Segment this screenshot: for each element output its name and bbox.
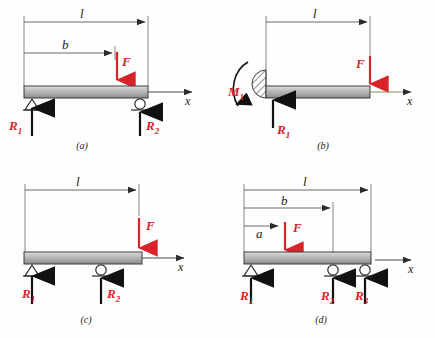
axis-label-x: x <box>407 94 412 109</box>
axis-label-x: x <box>185 94 190 109</box>
panel-caption-b: (b) <box>303 140 343 151</box>
reaction-label-R3: R3 <box>355 288 368 306</box>
axis-label-x: x <box>178 260 183 275</box>
beam-body <box>266 86 370 98</box>
panel-caption-a: (a) <box>62 140 102 151</box>
panel-caption-d: (d) <box>301 314 341 325</box>
reaction-label-R1: R1 <box>277 122 290 140</box>
support-roller-3 <box>360 265 370 275</box>
support-fixed-wall <box>252 70 266 98</box>
dimension-label-b: b <box>62 37 69 53</box>
force-label-F: F <box>146 218 155 234</box>
support-roller <box>96 265 106 275</box>
beam-body <box>24 252 142 264</box>
dimension-label-a: a <box>256 226 263 242</box>
reaction-label-R2: R2 <box>107 286 120 304</box>
force-label-F: F <box>293 220 302 236</box>
force-label-F: F <box>122 54 131 70</box>
support-pin <box>25 265 39 276</box>
panel-b: l F M1 R1 x (b) <box>215 0 435 168</box>
beam-body <box>244 252 371 264</box>
dimension-label-l: l <box>80 6 84 22</box>
panel-c: l F R1 R2 x (c) <box>0 168 215 338</box>
panel-caption-c: (c) <box>66 314 106 325</box>
reaction-label-R2: R2 <box>321 288 334 306</box>
reaction-label-M1: M1 <box>228 84 244 102</box>
support-roller-2 <box>328 265 338 275</box>
force-label-F: F <box>356 56 365 72</box>
reaction-label-R1: R1 <box>22 286 35 304</box>
panel-d-drawing <box>215 168 435 338</box>
beam-body <box>24 86 148 98</box>
panel-d: l b a F R1 R2 R3 x (d) <box>215 168 435 338</box>
dimension-label-b: b <box>281 193 288 209</box>
panel-a-drawing <box>0 0 215 168</box>
axis-label-x: x <box>408 262 413 277</box>
dimension-label-l: l <box>303 174 307 190</box>
reaction-label-R1: R1 <box>9 118 22 136</box>
panel-c-drawing <box>0 168 215 338</box>
support-pin <box>244 265 258 276</box>
dimension-label-l: l <box>313 6 317 22</box>
beam-loading-diagrams-figure: l b F R1 R2 x (a) <box>0 0 435 338</box>
reaction-label-R2: R2 <box>146 118 159 136</box>
reaction-label-R1: R1 <box>240 288 253 306</box>
support-roller <box>135 99 145 109</box>
panel-a: l b F R1 R2 x (a) <box>0 0 215 168</box>
dimension-label-l: l <box>76 174 80 190</box>
